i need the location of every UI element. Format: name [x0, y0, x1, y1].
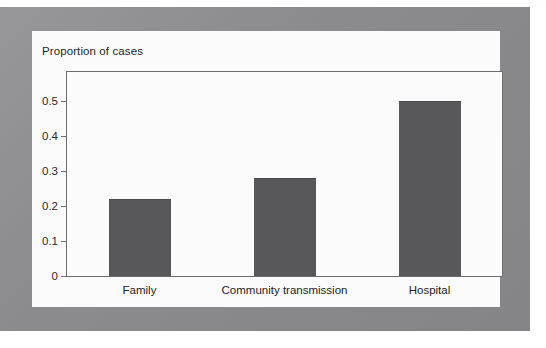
chart-title: Proportion of cases — [42, 45, 143, 57]
y-axis-tick-label: 0.4 — [42, 130, 58, 142]
y-axis-tick-label: 0.5 — [42, 95, 58, 107]
y-axis-tick — [61, 276, 67, 277]
bar-top-edge — [399, 101, 461, 102]
y-axis-tick-label: 0.1 — [42, 235, 58, 247]
bar-top-edge — [254, 178, 316, 179]
y-axis-tick — [61, 101, 67, 102]
figure-white-card: Proportion of cases 00.10.20.30.40.5 Fam… — [32, 31, 500, 307]
y-axis-tick — [61, 241, 67, 242]
plot-inner: 00.10.20.30.40.5 — [67, 72, 502, 276]
plot-area: 00.10.20.30.40.5 — [66, 71, 503, 277]
y-axis-tick — [61, 206, 67, 207]
bar — [254, 178, 316, 276]
x-axis-category-label: Family — [123, 284, 157, 296]
x-axis-category-label: Hospital — [409, 284, 451, 296]
bar — [399, 101, 461, 276]
x-axis-category-label: Community transmission — [222, 284, 348, 296]
bar — [109, 199, 171, 276]
y-axis-tick — [61, 171, 67, 172]
y-axis-tick-label: 0 — [52, 270, 58, 282]
y-axis-tick-label: 0.2 — [42, 200, 58, 212]
y-axis-tick-label: 0.3 — [42, 165, 58, 177]
figure-page: Proportion of cases 00.10.20.30.40.5 Fam… — [0, 0, 546, 348]
y-axis-tick — [61, 136, 67, 137]
bar-top-edge — [109, 199, 171, 200]
scan-top-strip — [160, 0, 546, 7]
